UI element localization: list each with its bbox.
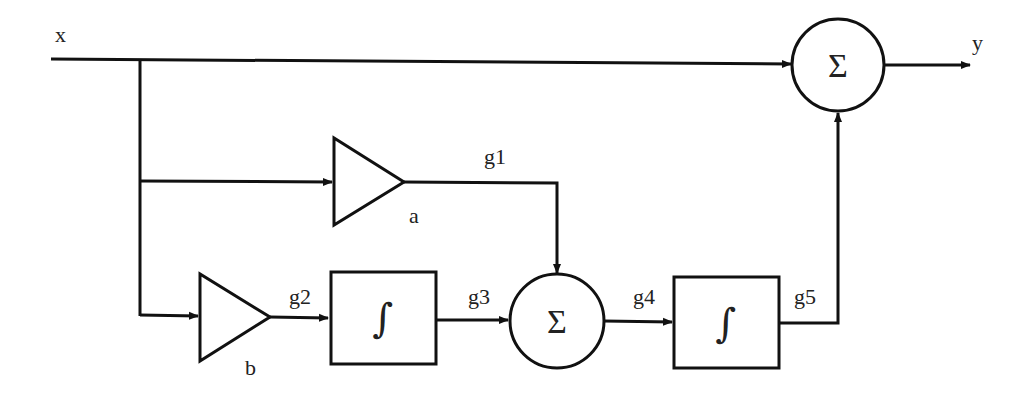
wire-x-to-gain-b [140,315,198,316]
gain-b-block [200,274,270,361]
wire-g1 [404,182,557,273]
block-diagram: x y g1 a g2 b g3 g4 g5 Σ Σ ∫ ∫ [0,0,1030,402]
wire-g4 [604,321,672,322]
wire-x-to-gain-a [140,181,332,182]
integrator-2-symbol: ∫ [716,300,737,346]
label-g2: g2 [289,284,311,309]
gain-a-block [334,138,404,225]
label-gain-b: b [245,355,256,380]
sum-1-symbol: Σ [547,303,567,340]
label-g4: g4 [633,284,655,309]
label-input-x: x [55,22,66,47]
label-g1: g1 [484,144,506,169]
label-g3: g3 [468,284,490,309]
label-g5: g5 [794,284,816,309]
sum-2-symbol: Σ [828,47,848,84]
label-gain-a: a [409,203,419,228]
wire-g2 [270,317,328,318]
label-output-y: y [972,30,983,55]
integrator-1-symbol: ∫ [373,295,394,341]
wire-x-to-output-sum [51,59,791,64]
